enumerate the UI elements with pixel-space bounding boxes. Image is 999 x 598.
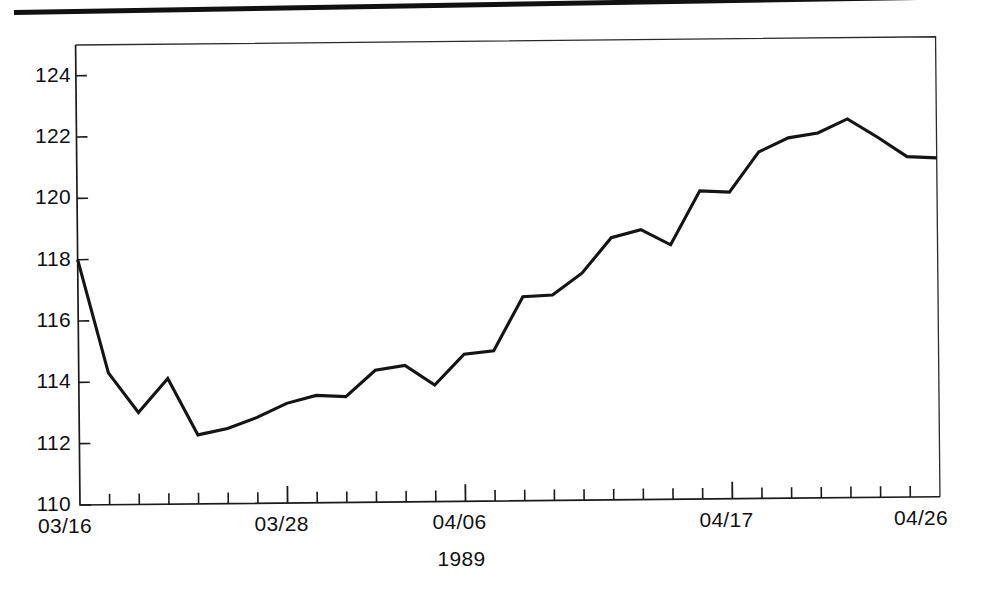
y-axis-label-112: 112 (37, 431, 71, 455)
data-series-line (76, 118, 939, 436)
x-axis-label-04-26: 04/26 (894, 506, 948, 530)
y-axis-label-120: 120 (35, 185, 71, 209)
y-axis-label-116: 116 (37, 308, 71, 332)
x-axis-label-04-17: 04/17 (699, 508, 753, 532)
y-axis-label-110: 110 (37, 492, 71, 516)
x-axis-label-03-16: 03/16 (38, 514, 92, 538)
y-axis-label-122: 122 (35, 124, 71, 148)
chart-figure: 110112114116118120122124 03/1603/2804/06… (0, 0, 999, 598)
plot-area-wrapper (0, 0, 999, 598)
y-axis-label-124: 124 (35, 63, 71, 87)
x-axis-label-04-06: 04/06 (433, 510, 487, 534)
x-axis-title: 1989 (438, 547, 486, 571)
x-axis-label-03-28: 03/28 (255, 512, 309, 536)
y-axis-label-118: 118 (37, 247, 71, 271)
y-axis-label-114: 114 (37, 369, 71, 393)
line-chart-svg (0, 0, 999, 598)
